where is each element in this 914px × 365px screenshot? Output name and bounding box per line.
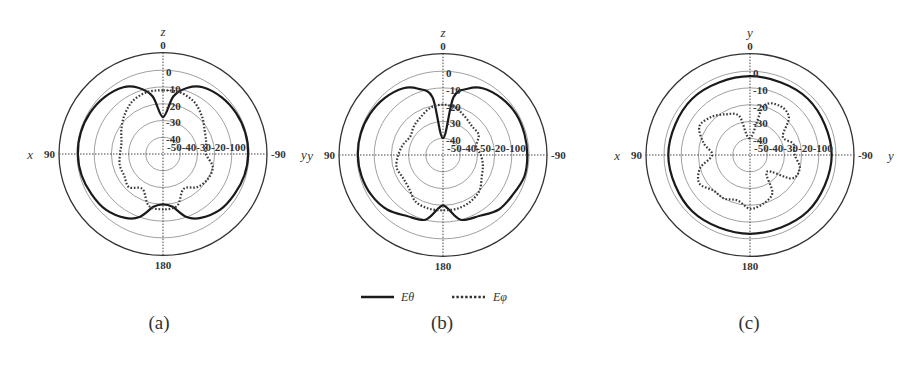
- radial-tick-label: -30: [753, 117, 768, 129]
- angle-tick-right: -90: [271, 148, 286, 160]
- legend: EθEφ: [361, 290, 507, 304]
- axis-label-right: y: [886, 148, 894, 163]
- angle-tick-left: 90: [324, 149, 336, 161]
- angle-tick-top: 0: [440, 40, 446, 52]
- series-e-phi: [396, 105, 483, 211]
- radial-tick-label: -20: [753, 101, 768, 113]
- caption-c: (c): [738, 312, 759, 334]
- axis-label-left: x: [26, 147, 33, 162]
- grid-ring: [716, 121, 785, 188]
- polar-chart-b: 0-10-20-30-40-50-40-50-20-100018090-90zy: [305, 25, 566, 273]
- angle-tick-right: -90: [858, 149, 873, 161]
- radial-tick-label: -10: [753, 84, 768, 96]
- angle-tick-bottom: 180: [435, 260, 452, 272]
- legend-label-e-theta: Eθ: [400, 290, 414, 304]
- caption-b: (b): [431, 312, 453, 334]
- legend-label-e-phi: Eφ: [492, 290, 507, 304]
- caption-a: (a): [148, 312, 169, 334]
- polar-chart-a: 0-10-20-30-40-50-40-30-20-100018090-90zx…: [26, 24, 307, 272]
- radial-tick-label: -20: [446, 101, 461, 113]
- radial-tick-label: -20: [166, 100, 181, 112]
- polar-figure: 0-10-20-30-40-50-40-30-20-100018090-90zx…: [0, 0, 914, 365]
- radial-tick-label: 0: [446, 67, 452, 79]
- radial-tick-row: -50-40-30-20-100: [754, 142, 833, 154]
- radial-tick-label: -10: [446, 84, 461, 96]
- axis-label-top: y: [745, 25, 753, 40]
- angle-tick-top: 0: [747, 40, 753, 52]
- angle-tick-left: 90: [44, 148, 56, 160]
- radial-tick-label: -30: [446, 117, 461, 129]
- radial-tick-label: -10: [166, 83, 181, 95]
- radial-tick-row: -50-40-50-20-100: [447, 142, 526, 154]
- radial-tick-label: -30: [166, 116, 181, 128]
- angle-tick-left: 90: [631, 149, 643, 161]
- axis-label-right: y: [299, 147, 307, 162]
- axis-label-left: y: [305, 148, 313, 163]
- angle-tick-top: 0: [160, 39, 166, 51]
- radial-tick-label: 0: [753, 67, 759, 79]
- angle-tick-bottom: 180: [155, 259, 172, 271]
- grid-ring: [129, 120, 198, 187]
- grid-ring: [409, 121, 478, 188]
- angle-tick-bottom: 180: [742, 260, 759, 272]
- axis-label-top: z: [159, 24, 165, 39]
- axis-label-top: z: [439, 25, 445, 40]
- polar-chart-c: 0-10-20-30-40-50-40-30-20-100018090-90yx…: [613, 25, 894, 273]
- radial-tick-row: -50-40-30-20-100: [167, 141, 246, 153]
- angle-tick-right: -90: [551, 149, 566, 161]
- radial-tick-label: 0: [166, 66, 172, 78]
- axis-label-left: x: [613, 148, 620, 163]
